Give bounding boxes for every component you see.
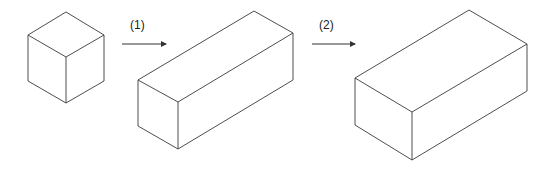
- cube-shape: [28, 12, 104, 103]
- step-1-label: (1): [130, 18, 145, 32]
- long-box-shape: [138, 11, 293, 149]
- wide-box-shape: [355, 10, 527, 160]
- step-2-label: (2): [319, 18, 334, 32]
- diagram-canvas: [0, 0, 550, 173]
